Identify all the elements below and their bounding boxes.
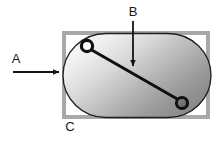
node-open <box>81 40 92 51</box>
diagram-canvas: A B C <box>0 0 221 144</box>
label-c: C <box>65 119 74 134</box>
label-b: B <box>129 4 138 19</box>
node-filled <box>176 97 187 108</box>
label-a: A <box>12 51 21 66</box>
diagram-svg: A B C <box>0 0 221 144</box>
